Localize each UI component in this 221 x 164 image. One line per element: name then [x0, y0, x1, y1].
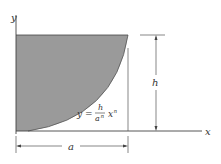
- area-diagram: y x h a y = h a n x n: [0, 0, 221, 164]
- svg-text:x: x: [108, 109, 113, 119]
- svg-text:y =: y =: [76, 109, 93, 119]
- width-label: a: [68, 141, 74, 152]
- height-label: h: [152, 77, 158, 88]
- svg-text:h: h: [98, 103, 103, 112]
- svg-text:n: n: [101, 113, 105, 119]
- x-axis-label: x: [205, 126, 211, 137]
- y-axis-label: y: [10, 12, 17, 23]
- svg-text:a: a: [95, 114, 100, 123]
- svg-text:n: n: [114, 108, 118, 114]
